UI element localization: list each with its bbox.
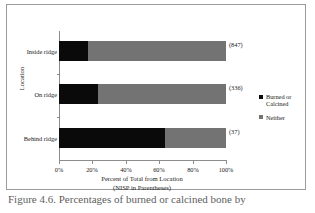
x-tick-label-100: 100% [213,166,239,173]
x-axis-tick [59,161,60,164]
x-axis-tick [126,161,127,164]
x-tick-label-60: 60% [146,166,172,173]
legend: Burned or Calcined Neither [259,93,305,127]
bar-row-on-ridge [59,84,226,104]
nisp-annotation-behind-ridge: (37) [229,128,240,135]
y-tick-label-behind-ridge: Behind ridge [11,135,57,142]
legend-swatch-icon-burned [259,95,263,99]
x-axis-tick [159,161,160,164]
x-tick-label-40: 40% [113,166,139,173]
x-axis-tick [193,161,194,164]
y-axis-tick-labels: Inside ridge On ridge Behind ridge [7,31,57,160]
x-axis-title-line2: (NISP in Parentheses) [27,184,257,193]
x-axis-tick [92,161,93,164]
x-axis-tick [226,161,227,164]
bar-segment-neither-on-ridge[interactable] [98,84,226,104]
legend-label-neither: Neither [266,114,285,121]
y-tick-label-on-ridge: On ridge [11,91,57,98]
x-axis-title: Percent of Total from Location (NISP in … [27,175,257,192]
bar-segment-neither-behind-ridge[interactable] [165,128,226,148]
nisp-annotation-on-ridge: (336) [229,84,243,91]
y-tick-label-inside-ridge: Inside ridge [11,48,57,55]
x-tick-label-20: 20% [79,166,105,173]
figure-frame: Location Inside ridge On ridge Behind ri… [6,4,306,190]
bar-segment-burned-on-ridge[interactable] [59,84,98,104]
bar-segment-neither-inside-ridge[interactable] [88,41,226,61]
legend-entry-burned-or-calcined[interactable]: Burned or Calcined [259,93,305,108]
bar-segment-burned-behind-ridge[interactable] [59,128,165,148]
page-caption: Figure 4.6. Percentages of burned or cal… [8,192,308,206]
legend-label-burned-or-calcined: Burned or Calcined [266,93,305,108]
legend-entry-neither[interactable]: Neither [259,114,305,121]
plot-area [59,31,226,159]
x-axis-title-line1: Percent of Total from Location [27,175,257,184]
bar-row-behind-ridge [59,128,226,148]
x-axis-line [59,160,227,161]
bar-segment-burned-inside-ridge[interactable] [59,41,88,61]
nisp-annotation-inside-ridge: (847) [229,41,243,48]
x-tick-label-0: 0% [46,166,72,173]
bar-row-inside-ridge [59,41,226,61]
legend-swatch-icon-neither [259,115,263,119]
x-tick-label-80: 80% [180,166,206,173]
